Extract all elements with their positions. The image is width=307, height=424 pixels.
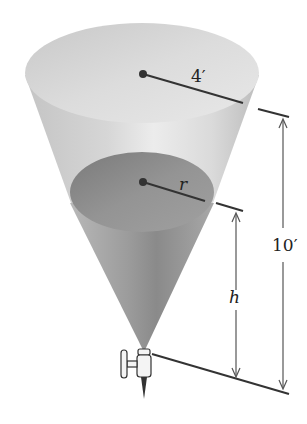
water-dimension-tick xyxy=(216,203,243,211)
top-radius-label: 4′ xyxy=(191,66,206,86)
water-surface xyxy=(70,152,214,232)
cone-tank-diagram: 4′ r 10′ h xyxy=(0,0,307,424)
water-radius-label: r xyxy=(179,174,188,194)
base-line xyxy=(152,354,289,394)
top-dimension-tick xyxy=(258,109,289,117)
total-height-label: 10′ xyxy=(272,235,298,255)
valve-icon xyxy=(121,349,151,399)
water-height-label: h xyxy=(229,287,240,307)
